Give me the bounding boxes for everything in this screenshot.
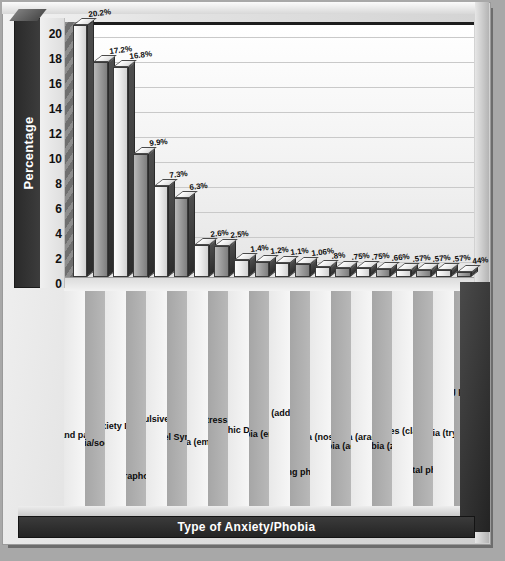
x-axis-category-band: Agoraphobia xyxy=(126,291,147,513)
bar xyxy=(416,270,431,284)
bar xyxy=(315,267,330,284)
x-axis-category-band: Body Dysmorphic Disorder (BDD) xyxy=(228,291,249,513)
x-axis-category-band: Tranquilizer issues (addiction/withdrawa… xyxy=(269,291,290,513)
x-axis-category-label: Blushing phobia (erythrophobia) xyxy=(249,428,270,438)
x-axis-category-band: Injection phobia (trypanophobia) xyxy=(433,291,454,513)
bar-front-face xyxy=(416,270,431,277)
x-axis-category-label: Injection phobia (trypanophobia) xyxy=(433,428,454,438)
x-axis-category-label: Hospital phobia xyxy=(413,464,434,474)
bar xyxy=(376,269,391,284)
y-axis-title-strip: Percentage xyxy=(14,18,42,288)
x-axis-category-band: Illness phobia (nosemaphobia) xyxy=(310,291,331,513)
bar xyxy=(436,270,451,284)
plot-floor-front xyxy=(18,506,474,516)
bar-value-label: 2.6% xyxy=(209,227,228,238)
bar-front-face xyxy=(73,25,88,277)
x-axis-title-bar: Type of Anxiety/Phobia xyxy=(18,516,475,538)
y-axis-tick-column: 02468101214161820 xyxy=(40,18,65,288)
bar xyxy=(214,246,229,284)
x-axis-category-band: Hospital phobia xyxy=(413,291,434,513)
bar-front-face xyxy=(255,262,270,277)
x-axis-category-band: Panic attack and panic disorder xyxy=(64,291,85,513)
x-axis-category-label: Agoraphobia xyxy=(126,470,147,480)
y-axis-tick-label: 18 xyxy=(40,52,62,66)
bar-front-face xyxy=(194,245,209,277)
bar xyxy=(295,264,310,284)
bar xyxy=(275,263,290,284)
bar-front-face xyxy=(356,268,371,277)
bar xyxy=(73,25,88,284)
bar-front-face xyxy=(436,270,451,277)
bar-front-face xyxy=(133,154,148,278)
y-axis-tick-label: 2 xyxy=(40,252,62,266)
x-axis-category-label: Obsessive Compulsive Disorder (OCD) xyxy=(146,415,167,425)
x-axis-category-band: Spider phobia (arachnophobia) xyxy=(351,291,372,513)
x-axis-category-label: Generalized Anxiety Disorder (GAD) xyxy=(105,421,126,431)
bar-front-face xyxy=(93,62,108,277)
y-axis-tick-label: 10 xyxy=(40,152,62,166)
bar xyxy=(154,186,169,284)
x-axis-category-label: Confined spaces (claustrophobia) xyxy=(392,425,413,435)
bar-front-face xyxy=(457,272,472,277)
bar-value-label: .57% xyxy=(452,253,471,264)
x-axis-category-label: Body Dysmorphic Disorder (BDD) xyxy=(228,426,249,436)
y-axis-tick-label: 4 xyxy=(40,227,62,241)
y-axis-tick-label: 20 xyxy=(40,27,62,41)
bar xyxy=(194,245,209,284)
bar-value-label: 44% xyxy=(472,255,489,266)
x-axis-category-label: Irritable Bowel Syndrome (IBS) xyxy=(167,432,188,442)
bar-value-label: .75% xyxy=(351,251,370,262)
x-axis-category-band: Irritable Bowel Syndrome (IBS) xyxy=(167,291,188,513)
x-axis-category-label: Post-Traumatic Stress Disorder (PTSD) xyxy=(208,414,229,424)
bar-front-face xyxy=(315,267,330,277)
x-axis-category-band: Driving phobia xyxy=(290,291,311,513)
bar-front-face xyxy=(335,268,350,277)
bar-front-face xyxy=(214,246,229,277)
bar-front-face xyxy=(396,270,411,277)
y-axis-title: Percentage xyxy=(15,19,41,287)
x-axis-category-band: Blushing phobia (erythrophobia) xyxy=(249,291,270,513)
y-axis-tick-label: 0 xyxy=(40,277,62,291)
bar-value-label: 6.3% xyxy=(189,181,208,192)
bar-value-label: 1.4% xyxy=(250,242,269,253)
y-axis-tick-label: 16 xyxy=(40,77,62,91)
bars-container: 20.2%17.2%16.8%9.9%7.3%6.3%2.6%2.5%1.4%1… xyxy=(70,22,474,284)
x-axis-category-band: Social phobia/social anxiety xyxy=(85,291,106,513)
bar-front-face xyxy=(376,269,391,277)
bar xyxy=(174,198,189,284)
x-axis-category-band: Animal phobia (zoophobia) xyxy=(372,291,393,513)
bar-value-label: 9.9% xyxy=(149,136,168,147)
y-axis-tick-label: 14 xyxy=(40,102,62,116)
bar-value-label: 1.1% xyxy=(290,246,309,257)
bar-front-face xyxy=(154,186,169,277)
x-axis-category-band: Flying phobia (aerophobia) xyxy=(331,291,352,513)
x-axis-category-label: Tranquilizer issues (addiction/withdrawa… xyxy=(269,409,290,419)
x-axis-category-label: Driving phobia xyxy=(290,467,311,477)
bar xyxy=(234,260,249,284)
x-axis-category-label: Illness phobia (nosemaphobia) xyxy=(310,432,331,442)
bar-value-label: .66% xyxy=(391,252,410,263)
bar xyxy=(356,268,371,284)
bar xyxy=(113,67,128,284)
bar-front-face xyxy=(295,264,310,277)
bar xyxy=(133,154,148,285)
bar-chart: Percentage 02468101214161820 20.2%17.2%1… xyxy=(0,0,505,561)
x-axis-category-label: Panic attack and panic disorder xyxy=(64,430,85,440)
bar-front-face xyxy=(275,263,290,277)
bar xyxy=(396,270,411,284)
x-axis-category-band: Obsessive Compulsive Disorder (OCD) xyxy=(146,291,167,513)
bar-value-label: 1.2% xyxy=(270,245,289,256)
bar-value-label: 7.3% xyxy=(169,169,188,180)
bar-value-label: 2.5% xyxy=(230,229,249,240)
x-axis-title: Type of Anxiety/Phobia xyxy=(178,520,316,534)
bar xyxy=(93,62,108,284)
x-axis-labels: Panic attack and panic disorderSocial ph… xyxy=(64,291,474,513)
x-axis-category-label: Spider phobia (arachnophobia) xyxy=(351,431,372,441)
y-axis-tick-label: 6 xyxy=(40,202,62,216)
bar-value-label: .75% xyxy=(371,251,390,262)
frame-corner-wedge xyxy=(460,282,490,532)
y-axis-tick-label: 12 xyxy=(40,127,62,141)
frame-bevel-top xyxy=(2,2,489,14)
bar-front-face xyxy=(174,198,189,277)
bar xyxy=(335,268,350,284)
